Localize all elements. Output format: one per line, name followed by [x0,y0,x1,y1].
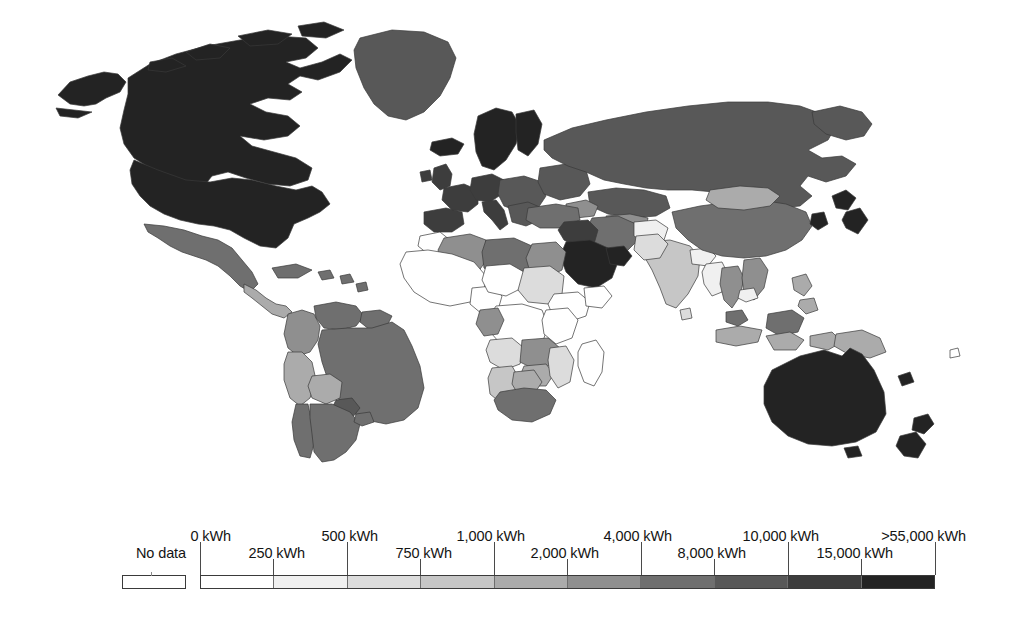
legend-swatch-bin-6 [640,576,713,588]
legend-tick-1000 [494,542,495,575]
legend-tick-500 [347,542,348,575]
region-madagascar [578,340,604,386]
legend-no-data-swatch [122,575,186,589]
legend-swatch-bin-0 [201,576,273,588]
legend-label-750-kwh: 750 kWh [395,545,452,562]
region-korea [810,212,828,230]
region-caribbean [272,264,368,292]
region-kazakhstan [588,188,670,218]
legend-label-4000-kwh: 4,000 kWh [604,528,672,545]
legend-tick-0 [200,542,201,575]
legend-swatch-bin-1 [273,576,346,588]
region-iceland [430,138,464,156]
legend-label-15000-kwh: 15,000 kWh [817,545,893,562]
legend-swatch-bin-2 [347,576,420,588]
region-canada [120,36,352,186]
legend-tick-55000 [935,542,936,575]
legend-label-10000-kwh: 10,000 kWh [743,528,819,545]
legend-tick-15000 [861,559,862,575]
legend-swatch-bin-3 [420,576,493,588]
region-mozambique [548,346,574,388]
region-pacific-islands [950,348,960,358]
legend-swatch-bin-7 [714,576,787,588]
region-tasmania [844,446,862,458]
region-cambodia [738,288,758,302]
legend-swatch-bin-5 [567,576,640,588]
legend-bottom-label-row: No data 250 kWh 750 kWh 2,000 kWh 8,000 … [0,545,1033,562]
legend-tick-250 [273,559,274,575]
region-iberia [424,208,464,232]
region-japan [832,190,868,234]
region-thailand [720,266,744,308]
region-australia [764,348,886,446]
legend-label-8000-kwh: 8,000 kWh [678,545,746,562]
map-legend: 0 kWh 500 kWh 1,000 kWh 4,000 kWh 10,000… [0,528,1033,608]
region-central-america [244,284,292,318]
legend-label-1000-kwh: 1,000 kWh [457,528,525,545]
region-sri-lanka [680,308,692,320]
region-venezuela [314,302,364,330]
region-bolivia [308,374,342,404]
legend-tick-2000 [567,559,568,575]
region-new-zealand [896,414,934,458]
legend-label-500-kwh: 500 kWh [321,528,378,545]
legend-label-max-kwh: >55,000 kWh [881,528,966,545]
legend-color-bar [200,575,935,589]
legend-tick-10000 [788,542,789,575]
region-alaska [56,72,126,118]
region-south-africa [494,388,556,422]
region-horn-of-africa [584,286,612,308]
legend-label-250-kwh: 250 kWh [248,545,305,562]
region-angola [486,338,524,370]
region-united-kingdom [420,164,452,190]
region-new-caledonia [898,372,914,386]
legend-swatch-bin-9 [861,576,934,588]
world-map-panel [0,0,1033,500]
choropleth-figure: 0 kWh 500 kWh 1,000 kWh 4,000 kWh 10,000… [0,0,1033,636]
legend-top-label-row: 0 kWh 500 kWh 1,000 kWh 4,000 kWh 10,000… [0,528,1033,545]
legend-label-no-data: No data [136,545,186,562]
legend-swatch-bin-8 [787,576,860,588]
region-colombia [284,310,320,356]
region-mongolia [706,186,780,210]
legend-swatch-bin-4 [494,576,567,588]
region-sahel-chad-niger [482,264,524,296]
region-scandinavia [474,108,520,170]
region-greenland [354,30,456,120]
region-finland [516,110,542,156]
legend-tick-8000 [714,559,715,575]
legend-tick-4000 [641,542,642,575]
legend-label-0-kwh: 0 kWh [190,528,231,545]
region-philippines [792,274,818,314]
world-map-svg [0,0,1033,500]
legend-tick-750 [420,559,421,575]
legend-label-2000-kwh: 2,000 kWh [531,545,599,562]
